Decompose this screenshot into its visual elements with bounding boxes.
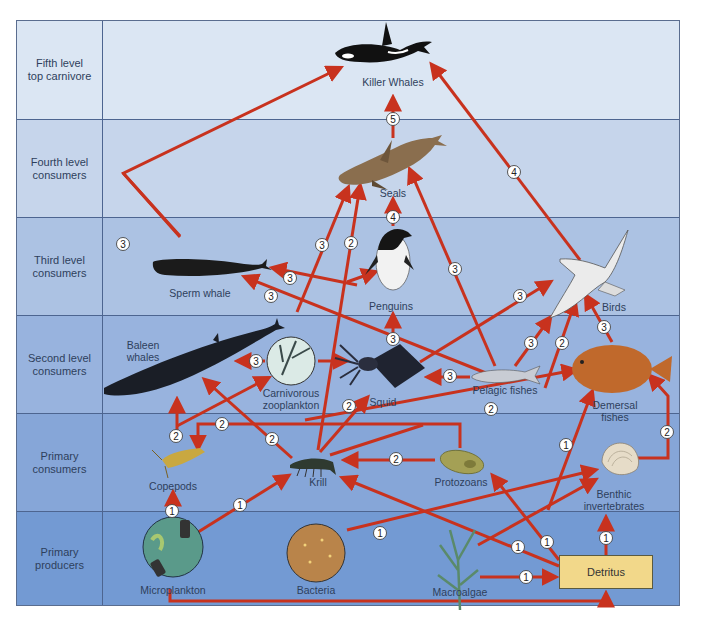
marker-2: 2 (345, 237, 358, 250)
marker-4: 4 (387, 211, 400, 224)
marker-3: 3 (525, 337, 538, 350)
svg-text:3: 3 (287, 273, 293, 284)
svg-text:3: 3 (268, 291, 274, 302)
marker-3: 3 (265, 290, 278, 303)
svg-text:1: 1 (523, 572, 529, 583)
svg-text:2: 2 (348, 238, 354, 249)
seal-icon (339, 135, 447, 190)
label-bacteria: Bacteria (297, 584, 336, 596)
arrow-baleen-to-killer (124, 68, 340, 236)
arrow-birds-to-killer (432, 65, 580, 260)
svg-text:3: 3 (120, 239, 126, 250)
label-seals: Seals (380, 187, 406, 199)
carnivorous-zooplankton-icon (267, 337, 315, 385)
microplankton-icon (143, 517, 203, 577)
marker-3: 3 (284, 272, 297, 285)
label-demersal-1: Demersal (593, 399, 638, 411)
svg-text:1: 1 (377, 528, 383, 539)
marker-2: 2 (266, 433, 279, 446)
marker-2: 2 (390, 453, 403, 466)
svg-text:1: 1 (515, 542, 521, 553)
marker-1: 1 (234, 499, 247, 512)
marker-1: 1 (520, 571, 533, 584)
svg-text:2: 2 (393, 454, 399, 465)
food-web-diagram: Killer Whales Seals Penguins Sperm whale… (0, 0, 705, 629)
detritus-box: Detritus (559, 555, 653, 589)
label-demersal-2: fishes (601, 411, 628, 423)
svg-text:2: 2 (488, 404, 494, 415)
arrow-protozoa-to-copepods (198, 424, 460, 448)
arrow-micro-to-detritus (170, 589, 606, 601)
svg-text:3: 3 (517, 291, 523, 302)
svg-text:4: 4 (390, 212, 396, 223)
marker-5: 5 (387, 113, 400, 126)
label-penguins: Penguins (369, 300, 413, 312)
marker-3: 3 (250, 355, 263, 368)
marker-2: 2 (216, 418, 229, 431)
marker-1: 1 (166, 505, 179, 518)
svg-text:5: 5 (390, 114, 396, 125)
clam-icon (602, 443, 639, 475)
penguin-icon (365, 229, 414, 290)
label-krill: Krill (309, 476, 327, 488)
marker-3: 3 (514, 290, 527, 303)
svg-text:1: 1 (169, 506, 175, 517)
arrow-krill-to-penguins (347, 272, 375, 282)
marker-3: 3 (444, 370, 457, 383)
arrow-squid-to-birds (420, 282, 550, 362)
killer-whale-icon (335, 22, 432, 62)
label-killer-whales: Killer Whales (362, 76, 423, 88)
svg-text:2: 2 (173, 431, 179, 442)
svg-text:3: 3 (319, 240, 325, 251)
label-birds: Birds (602, 301, 626, 313)
label-pelagic-fishes: Pelagic fishes (473, 384, 538, 396)
svg-text:3: 3 (601, 322, 607, 333)
svg-text:2: 2 (559, 338, 565, 349)
label-microplankton: Microplankton (140, 584, 206, 596)
svg-text:1: 1 (237, 500, 243, 511)
arrow-macro-to-benthic (478, 480, 595, 545)
krill-icon (290, 458, 336, 477)
svg-text:4: 4 (511, 167, 517, 178)
sperm-whale-icon (153, 259, 272, 276)
bacteria-icon (287, 524, 345, 582)
label-detritus: Detritus (587, 566, 625, 578)
label-benthic-1: Benthic (596, 488, 631, 500)
marker-3: 3 (449, 263, 462, 276)
svg-text:3: 3 (452, 264, 458, 275)
label-carnivorous-2: zooplankton (263, 399, 320, 411)
svg-text:3: 3 (528, 338, 534, 349)
label-sperm-whale: Sperm whale (169, 287, 230, 299)
marker-4: 4 (508, 166, 521, 179)
protozoan-icon (438, 447, 486, 478)
squid-icon (335, 344, 425, 388)
label-baleen-1: Baleen (127, 339, 160, 351)
marker-1: 1 (512, 541, 525, 554)
arrow-benthic-to-demersal (635, 376, 668, 458)
marker-2: 2 (556, 337, 569, 350)
marker-3: 3 (598, 321, 611, 334)
marker-1: 1 (541, 536, 554, 549)
svg-text:2: 2 (269, 434, 275, 445)
svg-text:2: 2 (664, 427, 670, 438)
marker-3: 3 (316, 239, 329, 252)
svg-text:2: 2 (346, 401, 352, 412)
marker-2: 2 (485, 403, 498, 416)
label-copepods: Copepods (149, 480, 197, 492)
label-squid: Squid (370, 396, 397, 408)
svg-text:1: 1 (563, 440, 569, 451)
pelagic-fish-icon (472, 366, 540, 384)
svg-text:3: 3 (390, 334, 396, 345)
arrow-krill-to-protozoa-line (330, 425, 423, 455)
marker-1: 1 (600, 532, 613, 545)
copepod-icon (152, 448, 205, 478)
macroalgae-icon (438, 530, 478, 610)
label-baleen-2: whales (126, 351, 160, 363)
svg-text:3: 3 (253, 356, 259, 367)
svg-text:3: 3 (447, 371, 453, 382)
svg-text:2: 2 (219, 419, 225, 430)
marker-3: 3 (117, 238, 130, 251)
marker-3: 3 (387, 333, 400, 346)
marker-2: 2 (343, 400, 356, 413)
label-benthic-2: invertebrates (584, 500, 645, 512)
